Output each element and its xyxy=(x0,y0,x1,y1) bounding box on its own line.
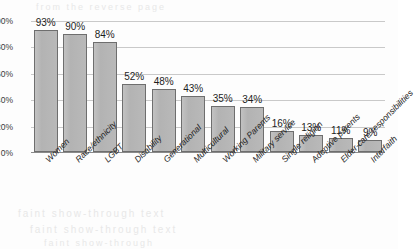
y-axis-tick-40: 40% xyxy=(0,96,13,105)
bar-series: 93%90%84%52%48%43%35%34%16%13%11%9% xyxy=(31,21,385,152)
bar xyxy=(34,30,58,152)
y-axis-tick-0: 0% xyxy=(0,149,13,158)
y-axis-tick-80: 80% xyxy=(0,43,13,52)
y-axis-tick-20: 20% xyxy=(0,123,13,132)
bar xyxy=(63,34,87,152)
y-axis-tick-60: 60% xyxy=(0,70,13,79)
bar-column: 93% xyxy=(31,21,61,152)
y-axis-tick-100: 100% xyxy=(0,17,13,26)
scan-bleed-artifact-top: from the reverse page xyxy=(36,2,166,12)
x-axis-category-labels: WomenRace/ethnicityLGBTDisabilityGenerat… xyxy=(31,155,385,247)
bar-column: 90% xyxy=(61,21,91,152)
bar xyxy=(122,84,146,152)
